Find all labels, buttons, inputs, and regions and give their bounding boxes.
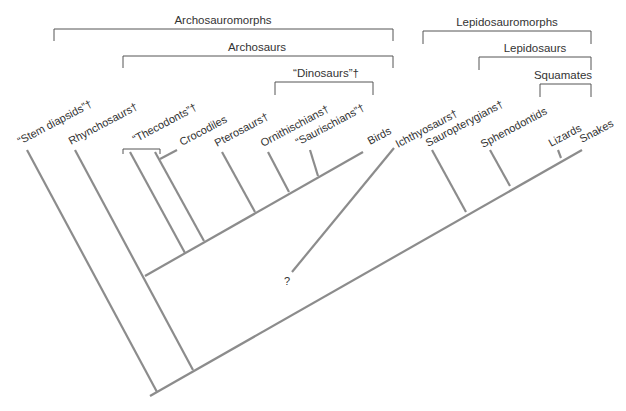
- clade-lepidosaurs: Lepidosaurs: [479, 42, 591, 70]
- clade-squamates: Squamates: [534, 69, 592, 97]
- taxon-birds: Birds: [365, 124, 393, 147]
- clade-label: Lepidosaurs: [504, 42, 567, 54]
- taxon-snakes: Snakes: [577, 117, 615, 145]
- unknown-origin-marker: ?: [284, 275, 290, 287]
- branch-pterosaurs: [222, 152, 255, 212]
- clade-label: Archosaurs: [228, 41, 286, 53]
- branch-saurischians: [310, 150, 318, 176]
- branch-main-trunk: [150, 150, 582, 396]
- branch-lizards: [558, 150, 561, 158]
- branch-thecodonts: [130, 152, 185, 253]
- branch-ornithischians: [268, 152, 289, 192]
- branch-crocodiles: [155, 152, 204, 241]
- taxon-labels: “Stem diapsids”†Rhynchosaurs†“Thecodonts…: [15, 97, 615, 149]
- clade-label: Archosauromorphs: [174, 14, 271, 26]
- clade-label: “Dinosaurs”†: [293, 67, 359, 79]
- clade-label: Squamates: [534, 69, 592, 81]
- clade-lepidosauromorphs: Lepidosauromorphs: [423, 16, 591, 44]
- clade-archosauromorphs: Archosauromorphs: [54, 14, 393, 41]
- clade-label: Lepidosauromorphs: [456, 16, 558, 28]
- branch-archosaur-trunk: [145, 152, 363, 276]
- branch-crocodiles-stub: [160, 150, 177, 159]
- clade-archosaurs: Archosaurs: [123, 41, 393, 68]
- branch-sphenodontids: [490, 150, 510, 186]
- tree-branches: [27, 148, 582, 396]
- clade-dinosaurs: “Dinosaurs”†: [275, 67, 373, 95]
- branch-sauropterygians: [432, 150, 466, 212]
- phylogenetic-tree: ArchosauromorphsArchosaurs“Dinosaurs”†Le…: [0, 0, 626, 411]
- bracket-line: [275, 82, 373, 95]
- branch-stem-diapsids: [27, 150, 157, 392]
- bracket-line: [54, 29, 393, 41]
- branch-ichthyosaurs: [292, 148, 394, 272]
- bracket-line: [540, 84, 591, 97]
